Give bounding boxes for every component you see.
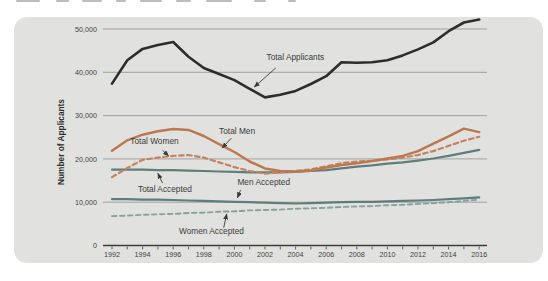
annotation-arrow-total-applicants xyxy=(254,68,275,87)
annotation-label-total-accepted: Total Accepted xyxy=(138,184,192,194)
y-tick-label: 40,000 xyxy=(75,68,97,77)
x-tick-label: 2006 xyxy=(318,250,334,259)
y-tick-label: 0 xyxy=(93,241,97,250)
y-axis-title: Number of Applicants xyxy=(56,99,66,185)
x-tick-label: 2004 xyxy=(288,250,304,259)
y-tick-label: 20,000 xyxy=(75,155,97,164)
annotation-arrow-total-men xyxy=(222,138,231,148)
x-tick-label: 1996 xyxy=(165,250,181,259)
x-tick-label: 2012 xyxy=(410,250,426,259)
y-tick-label: 30,000 xyxy=(75,111,97,120)
y-tick-label: 50,000 xyxy=(75,25,97,34)
x-tick-label: 1992 xyxy=(104,250,120,259)
annotation-arrow-total-women xyxy=(162,150,168,156)
annotation-label-total-women: Total Women xyxy=(130,136,179,146)
x-tick-label: 1998 xyxy=(196,250,212,259)
annotation-label-women-accepted: Women Accepted xyxy=(179,226,244,236)
y-tick-label: 10,000 xyxy=(75,198,97,207)
x-tick-label: 2010 xyxy=(379,250,395,259)
x-tick-label: 2008 xyxy=(349,250,365,259)
figure-root: 1992199419961998200020022004200620082010… xyxy=(0,0,548,281)
annotation-label-total-men: Total Men xyxy=(219,126,255,136)
annotation-label-total-applicants: Total Applicants xyxy=(267,52,325,62)
x-tick-label: 2016 xyxy=(471,250,487,259)
annotation-arrow-total-accepted xyxy=(158,173,163,183)
annotation-label-men-accepted: Men Accepted xyxy=(237,177,290,187)
x-tick-label: 2000 xyxy=(226,250,242,259)
x-tick-label: 2014 xyxy=(441,250,457,259)
x-tick-label: 2002 xyxy=(257,250,273,259)
annotation-arrow-men-accepted xyxy=(237,190,240,198)
applicants-line-chart: 1992199419961998200020022004200620082010… xyxy=(0,0,548,281)
x-tick-label: 1994 xyxy=(135,250,151,259)
